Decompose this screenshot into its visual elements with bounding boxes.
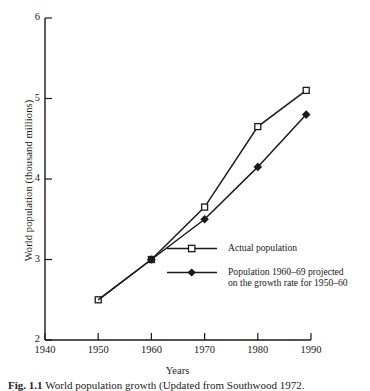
x-tick-label-1960: 1960	[131, 344, 171, 355]
y-tick-label-6: 6	[24, 11, 40, 22]
data-point-actual-1990	[303, 87, 309, 93]
x-tick-label-1940: 1940	[25, 344, 65, 355]
legend-label-actual-population: Actual population	[228, 242, 297, 253]
legend-label-projected-population-line2: on the growth rate for 1950–60	[228, 277, 348, 288]
y-axis-title: World population (thousand millions)	[23, 56, 34, 306]
x-tick-label-1990: 1990	[291, 344, 331, 355]
legend-marker-open-square	[166, 243, 218, 254]
axis-lines	[45, 18, 311, 340]
data-point-actual-1980	[255, 124, 261, 130]
y-tick-label-2: 2	[24, 333, 40, 344]
data-point-actual-1970	[202, 204, 208, 210]
figure-caption-label: Fig. 1.1	[8, 379, 43, 391]
x-axis-ticks	[45, 333, 311, 340]
x-tick-label-1970: 1970	[185, 344, 225, 355]
y-axis-ticks	[45, 18, 52, 340]
legend-marker-filled-diamond	[166, 267, 218, 278]
x-axis-title: Years	[45, 365, 310, 376]
legend-label-projected-population-line1: Population 1960–69 projected	[228, 266, 344, 277]
x-tick-label-1950: 1950	[78, 344, 118, 355]
x-tick-label-1980: 1980	[238, 344, 278, 355]
figure-caption-text: World population growth (Updated from So…	[45, 379, 304, 391]
figure-caption: Fig. 1.1 World population growth (Update…	[8, 379, 364, 391]
